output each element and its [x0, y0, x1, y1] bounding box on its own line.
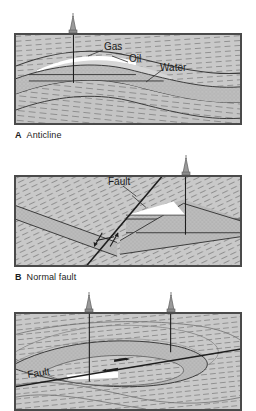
caption-normal-fault: BNormal fault [15, 272, 76, 282]
caption-text-anticline: Anticline [27, 130, 62, 140]
anticline-cross-section [15, 34, 241, 124]
faulted-fold-cross-section [15, 313, 241, 410]
caption-anticline: AAnticline [15, 130, 62, 140]
caption-letter-a: A [15, 130, 22, 140]
panel-anticline [14, 33, 242, 125]
well-derrick-b1 [182, 155, 190, 175]
well-derrick-a1 [69, 13, 77, 33]
caption-letter-b: B [15, 272, 22, 282]
well-derrick-c2 [167, 292, 175, 312]
caption-text-normal-fault: Normal fault [27, 272, 77, 282]
well-derrick-c1 [85, 292, 93, 312]
panel-faulted-fold [14, 312, 242, 411]
petroleum-trap-figure: Gas Oil Water Fault Fault AA [0, 0, 256, 411]
normal-fault-cross-section [15, 176, 241, 266]
panel-normal-fault [14, 175, 242, 267]
